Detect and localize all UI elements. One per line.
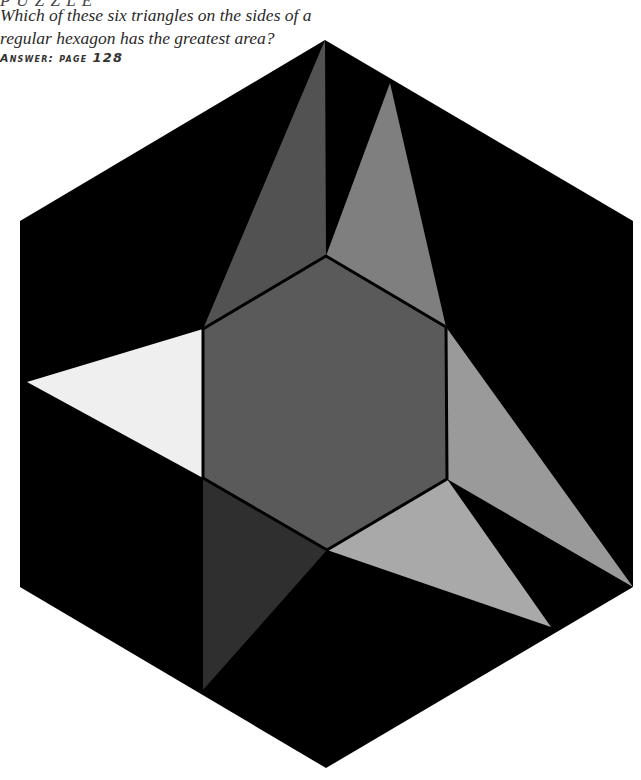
hexagon-triangles-figure <box>0 0 641 780</box>
